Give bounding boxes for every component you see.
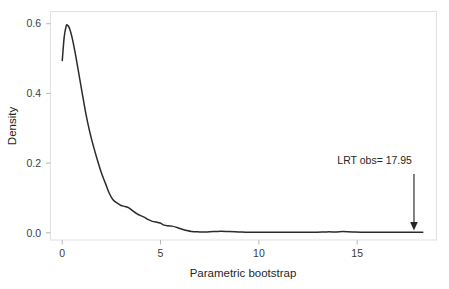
x-tick-label-0: 0 bbox=[59, 247, 65, 259]
y-tick-label-0.0: 0.0 bbox=[26, 227, 41, 239]
y-tick-label-0.2: 0.2 bbox=[26, 157, 41, 169]
y-tick-label-0.4: 0.4 bbox=[26, 87, 41, 99]
x-tick-label-5: 5 bbox=[158, 247, 164, 259]
chart-background bbox=[0, 0, 449, 289]
y-tick-label-0.6: 0.6 bbox=[26, 17, 41, 29]
x-tick-label-10: 10 bbox=[253, 247, 265, 259]
density-plot-figure: 0.6 0.4 0.2 0.0 0 5 10 15 Parametric boo… bbox=[0, 0, 449, 289]
x-axis-title: Parametric bootstrap bbox=[190, 267, 297, 279]
lrt-annotation-label: LRT obs= 17.95 bbox=[337, 154, 412, 166]
chart-canvas: 0.6 0.4 0.2 0.0 0 5 10 15 Parametric boo… bbox=[0, 0, 449, 289]
y-axis-title: Density bbox=[6, 107, 18, 146]
x-tick-label-15: 15 bbox=[351, 247, 363, 259]
